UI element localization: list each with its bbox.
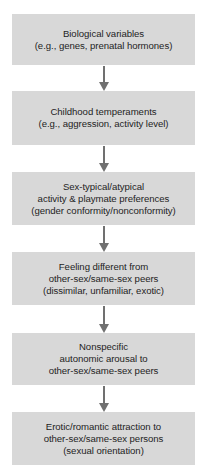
arrow-down-icon — [99, 306, 109, 333]
node-feeling-different: Feeling different from other-sex/same-se… — [12, 252, 195, 305]
node-label: Nonspecific autonomic arousal to other-s… — [49, 341, 159, 377]
arrow-down-icon — [99, 226, 109, 252]
node-label: Feeling different from other-sex/same-se… — [43, 261, 164, 297]
arrow-down-icon — [99, 66, 109, 91]
node-biological-variables: Biological variables (e.g., genes, prena… — [12, 14, 195, 65]
node-label: Sex-typical/atypical activity & playmate… — [31, 181, 175, 217]
node-label: Childhood temperaments (e.g., aggression… — [38, 106, 168, 130]
node-sex-typical-preferences: Sex-typical/atypical activity & playmate… — [12, 172, 195, 225]
arrow-down-icon — [99, 386, 109, 412]
node-label: Biological variables (e.g., genes, prena… — [35, 28, 173, 52]
node-label: Erotic/romantic attraction to other-sex/… — [44, 421, 164, 457]
node-autonomic-arousal: Nonspecific autonomic arousal to other-s… — [12, 333, 195, 385]
node-childhood-temperaments: Childhood temperaments (e.g., aggression… — [12, 91, 195, 145]
node-erotic-attraction: Erotic/romantic attraction to other-sex/… — [12, 412, 195, 465]
arrow-down-icon — [99, 146, 109, 172]
